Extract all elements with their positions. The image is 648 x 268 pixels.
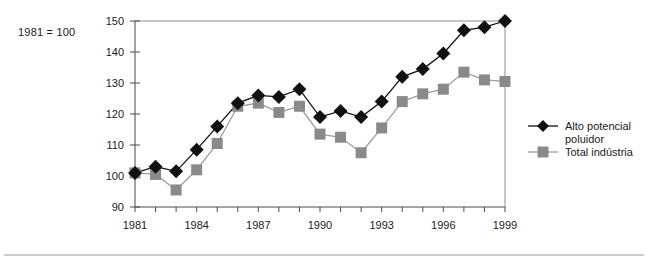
data-point-total-industria bbox=[376, 122, 387, 133]
data-point-total-industria bbox=[479, 74, 490, 85]
data-point-total-industria bbox=[315, 129, 326, 140]
y-tick-label: 110 bbox=[106, 139, 124, 151]
data-point-total-industria bbox=[438, 84, 449, 95]
legend-label-alto-potencial-line2: poluidor bbox=[565, 133, 604, 145]
data-point-total-industria bbox=[191, 164, 202, 175]
data-point-total-industria bbox=[356, 147, 367, 158]
x-tick-label: 1984 bbox=[184, 219, 208, 231]
data-point-alto-potencial bbox=[416, 62, 430, 76]
legend-label-alto-potencial-line1: Alto potencial bbox=[565, 120, 631, 132]
legend-label-total-industria: Total indústria bbox=[565, 146, 634, 158]
data-point-total-industria bbox=[273, 107, 284, 118]
data-point-total-industria bbox=[212, 138, 223, 149]
data-point-total-industria bbox=[335, 132, 346, 143]
x-tick-label: 1990 bbox=[308, 219, 332, 231]
data-point-total-industria bbox=[500, 76, 511, 87]
y-tick-label: 120 bbox=[106, 108, 124, 120]
y-tick-label: 100 bbox=[106, 170, 124, 182]
data-point-alto-potencial bbox=[477, 20, 491, 34]
x-tick-label: 1993 bbox=[369, 219, 393, 231]
chart-canvas: 9010011012013014015019811984198719901993… bbox=[0, 0, 648, 268]
x-tick-label: 1981 bbox=[123, 219, 147, 231]
data-point-alto-potencial bbox=[313, 110, 327, 124]
y-tick-label: 130 bbox=[106, 77, 124, 89]
y-tick-label: 90 bbox=[112, 201, 124, 213]
data-point-total-industria bbox=[171, 184, 182, 195]
x-tick-label: 1999 bbox=[493, 219, 517, 231]
x-tick-label: 1987 bbox=[246, 219, 270, 231]
data-point-total-industria bbox=[397, 96, 408, 107]
data-point-total-industria bbox=[417, 88, 428, 99]
x-tick-label: 1996 bbox=[431, 219, 455, 231]
chart-figure: 1981 = 100 90100110120130140150198119841… bbox=[0, 0, 648, 268]
data-point-total-industria bbox=[294, 101, 305, 112]
data-point-total-industria bbox=[458, 67, 469, 78]
y-tick-label: 140 bbox=[106, 46, 124, 58]
data-point-alto-potencial bbox=[498, 14, 512, 28]
data-point-alto-potencial bbox=[272, 90, 286, 104]
data-point-alto-potencial bbox=[354, 110, 368, 124]
legend-marker-total-industria bbox=[538, 147, 549, 158]
legend-marker-alto-potencial bbox=[537, 120, 549, 132]
y-tick-label: 150 bbox=[106, 15, 124, 27]
data-point-alto-potencial bbox=[292, 82, 306, 96]
data-point-alto-potencial bbox=[334, 104, 348, 118]
